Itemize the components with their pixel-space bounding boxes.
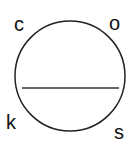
label-s: s <box>114 121 124 143</box>
label-o: o <box>109 12 120 34</box>
diagram-canvas: c o k s <box>0 0 132 146</box>
circle <box>15 21 125 131</box>
label-c: c <box>14 13 24 35</box>
label-k: k <box>6 111 17 133</box>
